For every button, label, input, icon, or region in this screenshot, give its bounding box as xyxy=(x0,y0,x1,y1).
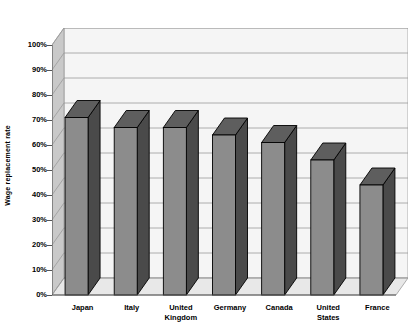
y-tick-mark xyxy=(47,145,52,146)
x-tick-label: United Kingdom xyxy=(154,303,208,322)
bar-japan xyxy=(65,101,100,296)
bar-united-kingdom xyxy=(163,111,198,296)
y-tick-mark xyxy=(47,245,52,246)
bar-canada xyxy=(262,126,297,296)
y-tick-label: 10% xyxy=(16,266,47,274)
x-tick-label: Japan xyxy=(56,303,110,313)
y-tick-mark xyxy=(47,45,52,46)
y-tick-label: 40% xyxy=(16,191,47,199)
bar-italy xyxy=(114,111,149,296)
x-tick-label: Germany xyxy=(203,303,257,313)
y-tick-label: 80% xyxy=(16,91,47,99)
bar-germany xyxy=(213,118,248,295)
y-axis-title: Wage replacement rate xyxy=(0,0,14,331)
y-tick-mark xyxy=(47,70,52,71)
y-tick-label: 20% xyxy=(16,241,47,249)
bar-france xyxy=(360,168,395,295)
y-tick-mark xyxy=(47,295,52,296)
x-axis-category-labels: JapanItalyUnited KingdomGermanyCanadaUni… xyxy=(52,303,408,331)
x-tick-label: United States xyxy=(301,303,355,322)
y-tick-label: 50% xyxy=(16,166,47,174)
y-tick-label: 100% xyxy=(16,41,47,49)
y-tick-mark xyxy=(47,220,52,221)
y-tick-mark xyxy=(47,120,52,121)
y-tick-mark xyxy=(47,95,52,96)
x-tick-label: Italy xyxy=(105,303,159,313)
y-tick-label: 0% xyxy=(16,291,47,299)
y-tick-label: 30% xyxy=(16,216,47,224)
chart-canvas xyxy=(52,28,408,303)
plot-area xyxy=(52,28,408,303)
y-tick-mark xyxy=(47,195,52,196)
bar-united-states xyxy=(311,143,346,295)
x-tick-label: France xyxy=(350,303,404,313)
chart-root: Wage replacement rate 0%10%20%30%40%50%6… xyxy=(0,0,416,331)
y-tick-label: 60% xyxy=(16,141,47,149)
y-tick-mark xyxy=(47,270,52,271)
y-tick-mark xyxy=(47,170,52,171)
x-tick-label: Canada xyxy=(252,303,306,313)
y-axis-tick-labels: 0%10%20%30%40%50%60%70%80%90%100% xyxy=(16,0,47,331)
y-tick-label: 90% xyxy=(16,66,47,74)
y-tick-label: 70% xyxy=(16,116,47,124)
